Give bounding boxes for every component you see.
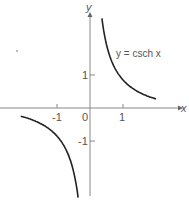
y-tick-label-1: 1: [82, 69, 88, 81]
x-tick-label-0: 0: [82, 111, 88, 123]
x-tick-label-1: 1: [119, 111, 125, 123]
curve-negative-branch: [21, 116, 78, 198]
stray-dot: [16, 50, 18, 52]
x-axis-label: x: [180, 102, 187, 114]
y-axis-label: y: [85, 1, 93, 13]
csch-chart: y x -1 0 1 1 -1 y = csch x: [0, 0, 189, 201]
x-tick-label-neg1: -1: [52, 111, 62, 123]
equation-label: y = csch x: [116, 48, 161, 59]
y-tick-label-neg1: -1: [78, 135, 88, 147]
